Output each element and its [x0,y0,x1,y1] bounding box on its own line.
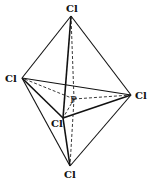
edge-top-right [71,16,131,95]
label-cl-top: Cl [66,3,78,14]
label-cl-right: Cl [135,90,147,101]
label-cl-front: Cl [51,118,63,129]
pcl5-diagram: Cl Cl Cl Cl Cl P [0,0,154,183]
edge-left-right [22,78,131,95]
label-cl-bottom: Cl [64,169,76,180]
edge-left-front [22,78,63,118]
bond-p-top [71,16,74,99]
label-cl-left: Cl [5,73,17,84]
edge-top-left [22,16,71,78]
bond-p-bottom [70,99,74,166]
label-p-center: P [70,94,77,105]
